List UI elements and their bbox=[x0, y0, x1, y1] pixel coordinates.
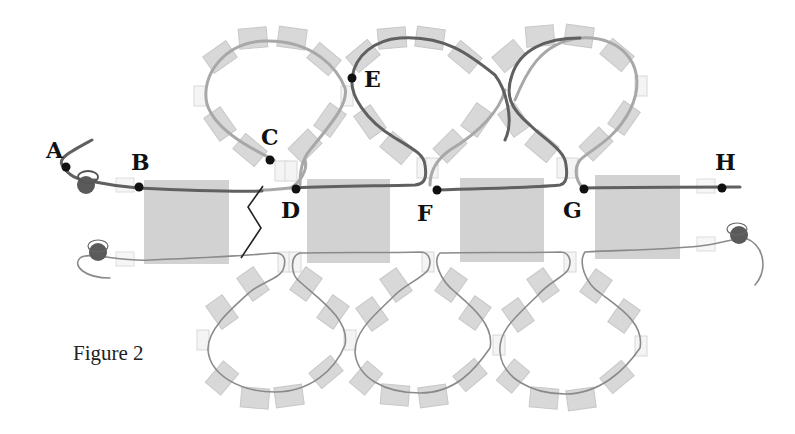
diagram-canvas: A B C D E F G H Figure 2 bbox=[0, 0, 795, 434]
point-F bbox=[433, 186, 442, 195]
label-F: F bbox=[417, 200, 433, 226]
beading-diagram: A B C D E F G H Figure 2 bbox=[0, 0, 795, 434]
label-B: B bbox=[131, 149, 150, 175]
point-A bbox=[62, 163, 71, 172]
label-C: C bbox=[261, 124, 279, 150]
point-G bbox=[580, 185, 589, 194]
point-D bbox=[292, 185, 301, 194]
point-E bbox=[348, 74, 357, 83]
figure-caption: Figure 2 bbox=[73, 341, 144, 365]
label-H: H bbox=[715, 149, 736, 175]
label-G: G bbox=[563, 197, 582, 223]
label-E: E bbox=[364, 66, 381, 92]
zigzag-break bbox=[241, 186, 263, 258]
point-B bbox=[135, 183, 144, 192]
label-A: A bbox=[45, 137, 64, 163]
point-H bbox=[718, 184, 727, 193]
label-D: D bbox=[281, 197, 300, 223]
point-C bbox=[266, 156, 275, 165]
